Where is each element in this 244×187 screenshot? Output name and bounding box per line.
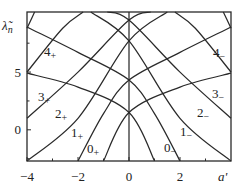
curve-2minus [91,12,231,161]
curve-label: 2+ [55,106,68,123]
curve-4minus [175,12,231,72]
y-tick-label: 0 [15,122,22,137]
curve-5minus [223,12,231,28]
curve-label: 3− [212,86,225,103]
curve-labels: 4+3+2+1+0+4−3−2−1−0− [38,44,226,158]
curve-label: 0− [164,140,177,157]
curve-label: 0+ [87,141,100,158]
y-axis-label-subscript: n [8,24,13,35]
y-axis-label: λ̃n [1,18,14,35]
x-axis-label: a' [218,169,228,184]
curve-label: 1+ [71,125,84,142]
curve-label: 4− [213,45,226,62]
x-tick-label: 0 [126,169,133,184]
x-tick-label: −2 [71,169,85,184]
curve-4plus [27,12,83,72]
curve-label: 3+ [38,89,51,106]
curve-label: 1− [180,124,193,141]
dispersion-chart: −4−202 05 4+3+2+1+0+4−3−2−1−0− λ̃n a' [0,0,244,187]
curve-label: 4+ [44,44,57,61]
x-tick-label: −4 [20,169,34,184]
curve-label: 2− [197,105,210,122]
curve-1plus [78,27,231,161]
x-tick-label: 2 [177,169,184,184]
curve-5plus [27,12,35,28]
y-tick-label: 5 [15,65,22,80]
y-axis-ticks: 05 [15,43,32,159]
curve-2plus [27,12,167,161]
